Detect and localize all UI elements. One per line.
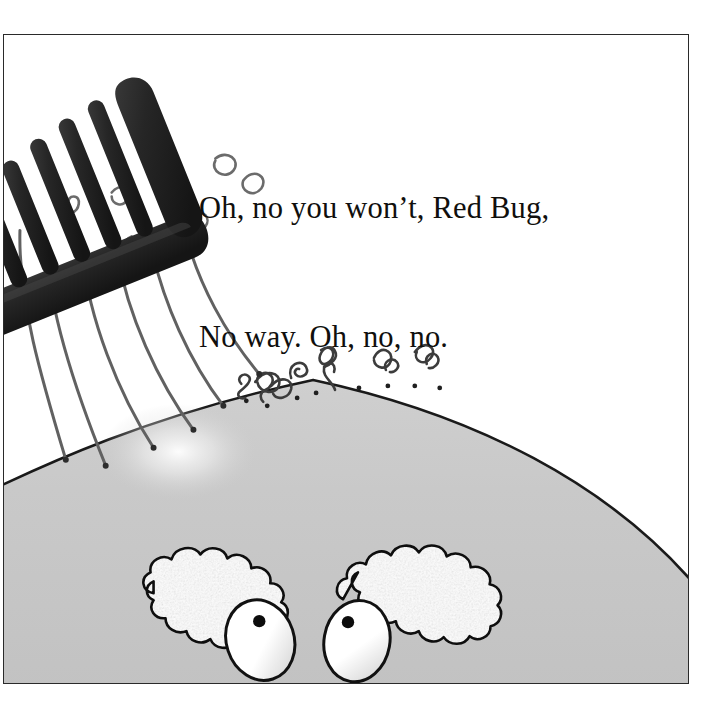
caption-line-2: No way. Oh, no, no. xyxy=(199,316,669,359)
comb xyxy=(4,71,217,352)
storybook-page: Oh, no you won’t, Red Bug, No way. Oh, n… xyxy=(0,0,715,721)
caption-line-1: Oh, no you won’t, Red Bug, xyxy=(199,187,669,230)
pupil-right xyxy=(342,616,354,628)
illustration-frame: Oh, no you won’t, Red Bug, No way. Oh, n… xyxy=(3,34,689,684)
caption-text: Oh, no you won’t, Red Bug, No way. Oh, n… xyxy=(199,101,669,445)
pupil-left xyxy=(253,615,265,627)
